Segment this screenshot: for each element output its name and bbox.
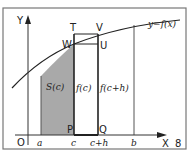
point-p: P [67, 124, 73, 135]
point-w: W [62, 39, 72, 50]
point-q: Q [99, 124, 107, 135]
y-axis-arrow-icon [25, 15, 31, 24]
tick-c-plus-h: c+h [90, 138, 108, 148]
region-label-s-c: S(c) [46, 82, 65, 92]
point-u: U [100, 40, 107, 51]
tick-c: c [71, 138, 76, 148]
y-axis-label: Y [16, 15, 24, 26]
point-t: T [69, 22, 77, 33]
figure-frame [3, 8, 186, 149]
tick-a: a [37, 138, 42, 148]
area-function-diagram: Y X O a c c+h b T V W U P Q S(c) f(c) f(… [0, 0, 187, 155]
height-label-f-c-plus-h: f(c+h) [99, 83, 129, 93]
tick-b: b [131, 138, 137, 148]
height-label-f-c: f(c) [75, 83, 92, 93]
curve-label: y=f(x) [147, 19, 177, 29]
figure-number: 8 [175, 138, 181, 149]
point-v: V [96, 22, 103, 33]
x-axis-label: X [162, 138, 169, 149]
origin-label: O [17, 137, 25, 148]
